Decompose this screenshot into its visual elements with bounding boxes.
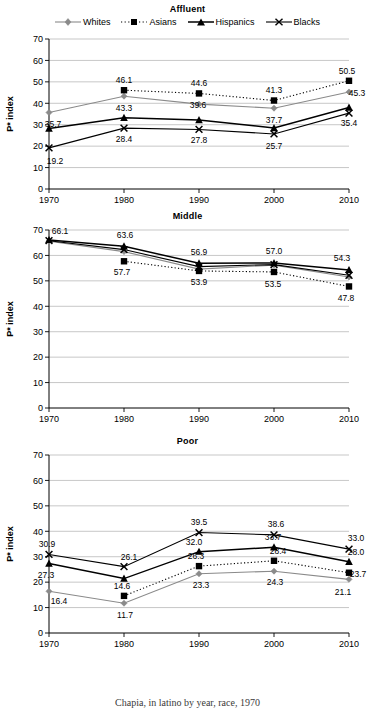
y-tick-label: 50 (33, 77, 43, 87)
y-tick-label: 40 (33, 302, 43, 312)
x-tick-label: 1990 (189, 195, 209, 205)
chart-svg-poor: 01020304050607019701980199020002010P* in… (0, 447, 375, 659)
y-axis-title: P* index (5, 96, 15, 132)
x-tick-label: 1970 (39, 195, 59, 205)
x-tick-label: 2010 (339, 414, 359, 424)
square-marker (196, 563, 202, 569)
data-point-label: 63.6 (117, 230, 134, 240)
data-point-label: 32.0 (186, 537, 203, 547)
square-marker-icon (121, 17, 147, 27)
data-point-label: 19.2 (47, 156, 64, 166)
chart-panel-middle: Middle 010203040506070197019801990200020… (0, 209, 375, 434)
legend-item-asians[interactable]: Asians (121, 17, 176, 27)
data-point-label: 26.1 (121, 552, 138, 562)
diamond-marker (46, 588, 52, 594)
diamond-marker-icon (55, 17, 81, 27)
x-tick-label: 1990 (189, 414, 209, 424)
series-polyline (124, 81, 349, 101)
square-marker (271, 558, 277, 564)
data-point-label: 53.9 (191, 277, 208, 287)
square-marker (196, 90, 202, 96)
x-axis-ticks: 19701980199020002010 (39, 189, 359, 205)
data-point-label: 24.3 (267, 577, 284, 587)
x-marker-icon (266, 17, 292, 27)
data-point-label: 28.4 (270, 546, 287, 556)
data-point-label: 28.0 (348, 547, 365, 557)
diamond-marker (271, 105, 277, 111)
y-tick-label: 30 (33, 327, 43, 337)
gridlines: 010203040506070 (33, 34, 349, 194)
x-axis-ticks: 19701980199020002010 (39, 408, 359, 424)
x-tick-label: 1970 (39, 639, 59, 649)
data-point-label: 14.6 (114, 581, 131, 591)
y-axis-title: P* index (5, 301, 15, 337)
square-marker (121, 258, 127, 264)
y-tick-label: 0 (38, 403, 43, 413)
data-point-label: 38.6 (268, 519, 285, 529)
panel-title-poor: Poor (0, 436, 375, 447)
x-tick-label: 2010 (339, 195, 359, 205)
data-point-label: 37.7 (266, 115, 283, 125)
triangle-marker (45, 560, 53, 567)
y-tick-label: 10 (33, 378, 43, 388)
data-point-label: 39.5 (191, 517, 208, 527)
y-tick-label: 0 (38, 184, 43, 194)
legend-item-hispanics[interactable]: Hispanics (188, 17, 255, 27)
legend-label-blacks: Blacks (294, 17, 321, 27)
chart-panel-poor: Poor 01020304050607019701980199020002010… (0, 434, 375, 659)
y-tick-label: 10 (33, 603, 43, 613)
data-point-label: 35.7 (45, 119, 62, 129)
data-point-label: 66.1 (52, 226, 69, 236)
data-point-label: 41.3 (266, 85, 283, 95)
x-axis-ticks: 19701980199020002010 (39, 633, 359, 649)
y-tick-label: 40 (33, 527, 43, 537)
legend-label-asians: Asians (149, 17, 176, 27)
x-tick-label: 2000 (264, 195, 284, 205)
chart-svg-affluent: 01020304050607019701980199020002010P* in… (0, 29, 375, 209)
y-tick-label: 40 (33, 99, 43, 109)
y-tick-label: 60 (33, 251, 43, 261)
square-marker (271, 97, 277, 103)
plot-area-middle: 01020304050607019701980199020002010P* in… (0, 222, 375, 434)
x-tick-label: 1980 (114, 195, 134, 205)
legend-item-whites[interactable]: Whites (55, 17, 111, 27)
data-point-label: 28.4 (116, 134, 133, 144)
data-point-label: 27.3 (38, 570, 55, 580)
y-tick-label: 30 (33, 120, 43, 130)
chart-svg-middle: 01020304050607019701980199020002010P* in… (0, 222, 375, 434)
x-tick-label: 1970 (39, 414, 59, 424)
x-tick-label: 2000 (264, 639, 284, 649)
square-marker (121, 593, 127, 599)
y-tick-label: 10 (33, 163, 43, 173)
data-point-label: 44.6 (191, 78, 208, 88)
diamond-marker (46, 110, 52, 116)
x-tick-label: 2010 (339, 639, 359, 649)
data-point-label: 30.9 (39, 539, 56, 549)
data-point-label: 23.3 (193, 580, 210, 590)
x-tick-label: 1980 (114, 639, 134, 649)
data-labels: 57.753.953.547.866.163.656.957.054.3 (52, 226, 355, 304)
legend-item-blacks[interactable]: Blacks (266, 17, 321, 27)
chart-panel-affluent: Affluent Whites Asians Hispanics (0, 0, 375, 209)
panel-title-middle: Middle (0, 211, 375, 222)
data-point-label: 21.1 (335, 587, 352, 597)
data-point-label: 26.3 (188, 551, 205, 561)
data-point-label: 16.4 (51, 596, 68, 606)
data-point-label: 27.8 (191, 135, 208, 145)
triangle-marker-icon (188, 17, 214, 27)
y-tick-label: 0 (38, 628, 43, 638)
figure-caption: Chapia, in latino by year, race, 1970 (0, 697, 375, 708)
y-tick-label: 50 (33, 276, 43, 286)
diamond-marker (196, 571, 202, 577)
legend-label-whites: Whites (83, 17, 111, 27)
data-point-label: 35.4 (341, 118, 358, 128)
data-point-label: 45.3 (349, 88, 366, 98)
chart-legend: Whites Asians Hispanics Blacks (0, 15, 375, 29)
diamond-marker (271, 568, 277, 574)
y-tick-label: 60 (33, 56, 43, 66)
x-tick-label: 1980 (114, 414, 134, 424)
data-point-label: 33.7 (265, 532, 282, 542)
legend-label-hispanics: Hispanics (216, 17, 255, 27)
square-marker (271, 269, 277, 275)
data-point-label: 23.7 (350, 569, 367, 579)
